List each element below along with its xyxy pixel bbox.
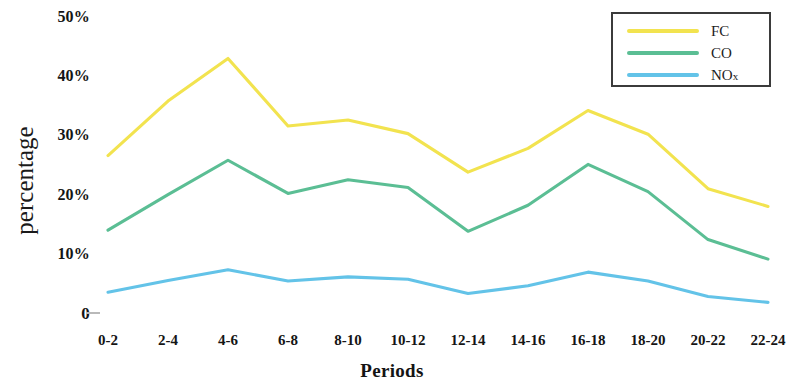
legend-item-fc[interactable]: FC bbox=[613, 20, 769, 42]
legend-swatch-icon bbox=[627, 51, 699, 55]
series-line-nox bbox=[108, 270, 768, 303]
legend-swatch-icon bbox=[627, 73, 699, 77]
legend-label: CO bbox=[711, 44, 767, 62]
zero-tick-mark bbox=[86, 312, 100, 314]
legend-label: FC bbox=[711, 22, 767, 40]
x-tick-label: 22-24 bbox=[731, 332, 790, 349]
x-axis: 0-22-44-66-88-1010-1212-1414-1616-1818-2… bbox=[0, 332, 784, 354]
legend-item-co[interactable]: CO bbox=[613, 42, 769, 64]
legend-label: NOx bbox=[711, 66, 767, 84]
legend-item-nox[interactable]: NOx bbox=[613, 64, 769, 86]
y-axis-title: percentage bbox=[12, 91, 37, 271]
legend-swatch-icon bbox=[627, 29, 699, 33]
legend: FCCONOx bbox=[611, 12, 771, 87]
x-axis-title: Periods bbox=[0, 361, 784, 380]
series-line-co bbox=[108, 160, 768, 259]
